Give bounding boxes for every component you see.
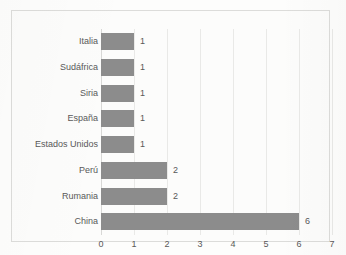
bar xyxy=(101,188,167,205)
bar-value-label: 1 xyxy=(140,110,145,127)
bar xyxy=(101,110,134,127)
category-label: China xyxy=(18,209,98,235)
x-tick-label: 7 xyxy=(329,237,334,251)
x-tick-label: 2 xyxy=(164,237,169,251)
bar-value-label: 2 xyxy=(173,188,178,205)
bar xyxy=(101,85,134,102)
bar-row: 6 xyxy=(101,209,332,235)
bar-value-label: 1 xyxy=(140,136,145,153)
bar-value-label: 1 xyxy=(140,85,145,102)
category-label: Rumania xyxy=(18,184,98,210)
x-tick-label: 3 xyxy=(197,237,202,251)
x-tick-label: 6 xyxy=(296,237,301,251)
x-tick-label: 4 xyxy=(230,237,235,251)
bar-row: 1 xyxy=(101,106,332,132)
bar-value-label: 1 xyxy=(140,59,145,76)
bar xyxy=(101,136,134,153)
category-label: Estados Unidos xyxy=(18,132,98,158)
bar-value-label: 1 xyxy=(140,33,145,50)
bar-row: 1 xyxy=(101,81,332,107)
bar-value-label: 6 xyxy=(305,213,310,230)
bars-layer: 11111226 xyxy=(101,29,332,235)
x-axis-tick-labels: 01234567 xyxy=(101,237,332,253)
bar-value-label: 2 xyxy=(173,162,178,179)
bar-chart-figure: 11111226 ItaliaSudáfricaSiriaEspañaEstad… xyxy=(0,0,346,255)
bar-row: 1 xyxy=(101,29,332,55)
category-axis-labels: ItaliaSudáfricaSiriaEspañaEstados Unidos… xyxy=(18,29,98,235)
gridline-7 xyxy=(332,29,333,235)
x-tick-label: 1 xyxy=(131,237,136,251)
chart-frame: 11111226 ItaliaSudáfricaSiriaEspañaEstad… xyxy=(11,10,330,242)
category-label: España xyxy=(18,106,98,132)
x-tick-label: 5 xyxy=(263,237,268,251)
bar xyxy=(101,59,134,76)
bar xyxy=(101,213,299,230)
category-label: Italia xyxy=(18,29,98,55)
category-label: Perú xyxy=(18,158,98,184)
bar-row: 1 xyxy=(101,132,332,158)
bar-row: 2 xyxy=(101,158,332,184)
category-label: Sudáfrica xyxy=(18,55,98,81)
x-tick-label: 0 xyxy=(98,237,103,251)
bar-row: 1 xyxy=(101,55,332,81)
bar-row: 2 xyxy=(101,184,332,210)
bar xyxy=(101,162,167,179)
bar xyxy=(101,33,134,50)
category-label: Siria xyxy=(18,81,98,107)
